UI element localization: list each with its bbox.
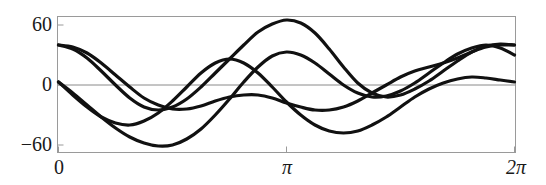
x-tick-label-0: 0 (40, 156, 78, 179)
y-tick-label-60: 60 (0, 13, 52, 36)
curve-4 (59, 20, 515, 110)
y-tick-label-0: 0 (0, 73, 52, 96)
two-pi-symbol: 2π (506, 156, 526, 178)
chart-figure: 60 0 −60 0 π 2π (0, 0, 546, 185)
pi-symbol: π (282, 156, 292, 178)
data-curves (59, 20, 515, 146)
x-axis-ticks (59, 147, 515, 153)
x-tick-label-pi: π (268, 156, 306, 179)
x-tick-label-2pi: 2π (494, 156, 538, 179)
y-tick-label-minus-60: −60 (0, 133, 52, 156)
